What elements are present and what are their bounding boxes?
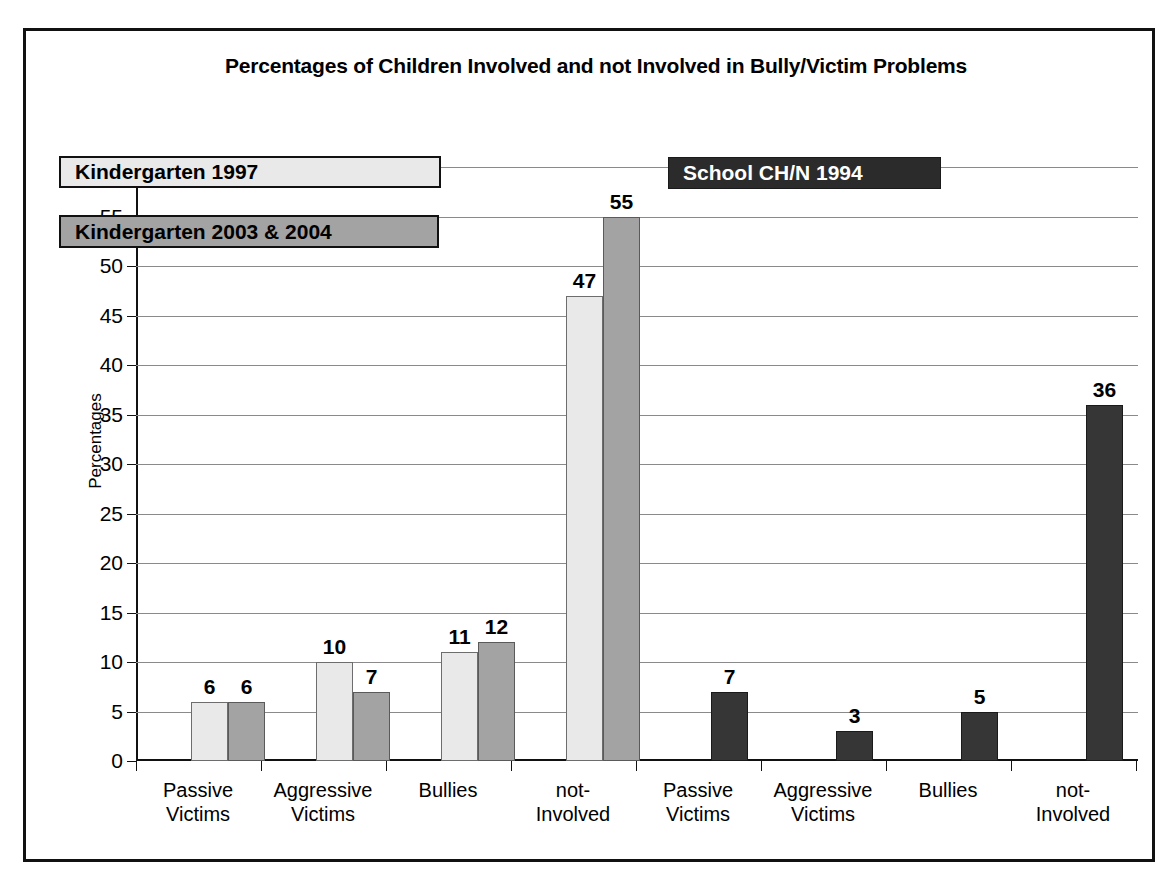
bar: 10 (316, 662, 353, 761)
y-axis-tick-label: 25 (100, 502, 123, 526)
bar-value-label: 10 (323, 635, 346, 659)
y-axis-title: Percentages (86, 361, 106, 521)
bar-value-label: 47 (573, 269, 596, 293)
x-axis-tick-label-line: Involved (536, 802, 611, 826)
y-axis-tick-label: 0 (111, 749, 123, 773)
bar: 36 (1086, 405, 1123, 761)
bar: 3 (836, 731, 873, 761)
bar-value-label: 3 (849, 704, 861, 728)
bar-value-label: 12 (485, 615, 508, 639)
x-axis-tick-label-line: not- (536, 778, 611, 802)
y-axis-tick-label: 30 (100, 452, 123, 476)
x-axis-tick-label: PassiveVictims (163, 778, 233, 827)
y-axis-tick-mark (127, 365, 136, 366)
x-axis-tick-label: AggressiveVictims (274, 778, 373, 827)
x-axis-tick-label: not-Involved (1036, 778, 1111, 827)
y-axis-tick-mark (127, 662, 136, 663)
y-axis-tick-label: 40 (100, 353, 123, 377)
bar: 55 (603, 217, 640, 762)
x-axis-tick-mark (1011, 761, 1012, 771)
x-axis-tick-label-line: Passive (663, 778, 733, 802)
x-axis-tick-label: not-Involved (536, 778, 611, 827)
y-axis-tick-label: 35 (100, 403, 123, 427)
legend-label-school-chn-1994: School CH/N 1994 (683, 161, 863, 185)
x-axis-tick-mark (761, 761, 762, 771)
y-axis-tick-label: 10 (100, 650, 123, 674)
x-axis-tick-label-line: Passive (163, 778, 233, 802)
y-axis-tick-mark (127, 316, 136, 317)
bar-value-label: 5 (974, 685, 986, 709)
x-axis-tick-mark (1136, 761, 1137, 771)
bar-value-label: 7 (724, 665, 736, 689)
legend-label-kindergarten-1997: Kindergarten 1997 (75, 160, 258, 184)
bar-value-label: 6 (241, 675, 253, 699)
x-axis-tick-mark (261, 761, 262, 771)
x-axis-tick-mark (511, 761, 512, 771)
x-axis-tick-mark (136, 761, 137, 771)
x-axis-tick-mark (886, 761, 887, 771)
bar: 5 (961, 712, 998, 762)
x-axis-tick-label: PassiveVictims (663, 778, 733, 827)
x-axis-tick-label: AggressiveVictims (774, 778, 873, 827)
bar: 6 (191, 702, 228, 761)
x-axis-tick-label-line: Aggressive (274, 778, 373, 802)
y-axis-tick-mark (127, 464, 136, 465)
chart-title: Percentages of Children Involved and not… (146, 53, 1046, 79)
bar: 6 (228, 702, 265, 761)
bar: 7 (353, 692, 390, 761)
legend-label-kindergarten-2003-2004: Kindergarten 2003 & 2004 (75, 220, 332, 244)
y-axis-tick-mark (127, 266, 136, 267)
y-axis-tick-label: 50 (100, 254, 123, 278)
y-axis-tick-mark (127, 415, 136, 416)
x-axis-tick-label: Bullies (419, 778, 478, 802)
y-axis-tick-label: 45 (100, 304, 123, 328)
x-axis-tick-label-line: Victims (663, 802, 733, 826)
y-axis-tick-mark (127, 613, 136, 614)
chart-figure: Percentages of Children Involved and not… (23, 28, 1155, 862)
bar-value-label: 6 (204, 675, 216, 699)
x-axis-tick-label-line: not- (1036, 778, 1111, 802)
y-axis-tick-label: 20 (100, 551, 123, 575)
x-axis-tick-label-line: Aggressive (774, 778, 873, 802)
bar: 47 (566, 296, 603, 761)
x-axis-tick-label-line: Bullies (419, 778, 478, 802)
x-axis-tick-label-line: Victims (274, 802, 373, 826)
y-axis-tick-mark (127, 514, 136, 515)
bar: 11 (441, 652, 478, 761)
x-axis-tick-mark (636, 761, 637, 771)
legend-item-kindergarten-2003-2004: Kindergarten 2003 & 2004 (59, 215, 439, 248)
x-axis-tick-label-line: Victims (774, 802, 873, 826)
y-axis-tick-mark (127, 761, 136, 762)
legend-item-school-chn-1994: School CH/N 1994 (668, 157, 941, 189)
y-axis-tick-label: 15 (100, 601, 123, 625)
y-axis-tick-mark (127, 563, 136, 564)
bar: 12 (478, 642, 515, 761)
y-axis-tick-label: 5 (111, 700, 123, 724)
x-axis-tick-label-line: Involved (1036, 802, 1111, 826)
x-axis-tick-mark (386, 761, 387, 771)
x-axis-tick-label-line: Victims (163, 802, 233, 826)
bar-value-label: 7 (366, 665, 378, 689)
legend-item-kindergarten-1997: Kindergarten 1997 (59, 156, 441, 188)
y-axis-tick-mark (127, 712, 136, 713)
x-axis-tick-label-line: Bullies (919, 778, 978, 802)
x-axis-tick-label: Bullies (919, 778, 978, 802)
bar-value-label: 55 (610, 190, 633, 214)
bar-value-label: 11 (448, 625, 470, 649)
bar-value-label: 36 (1093, 378, 1116, 402)
bar: 7 (711, 692, 748, 761)
plot-area: 051015202530354045505560 661071112475573… (136, 167, 1138, 761)
